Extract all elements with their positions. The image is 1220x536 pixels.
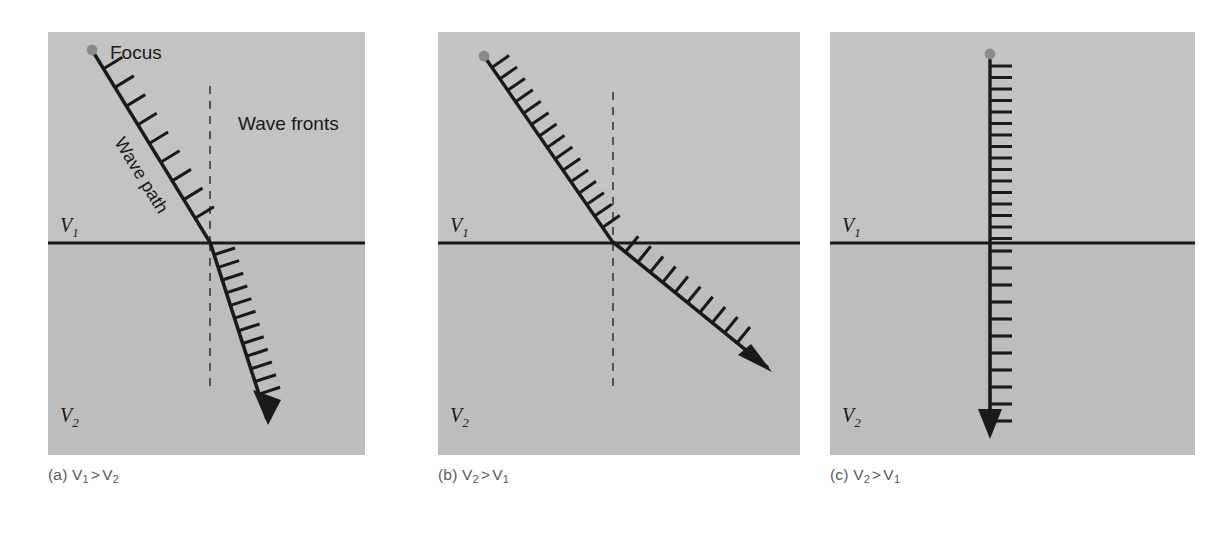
panel-a-diagram: Focus Wave path Wave fronts V1 V2	[48, 32, 365, 455]
upper-velocity-subscript-c: 1	[854, 225, 861, 240]
focus-dot-c	[985, 49, 996, 60]
lower-velocity-subscript-c: 2	[854, 415, 861, 430]
caption-a-left-sub: 1	[83, 473, 89, 485]
caption-b-right-sub: 1	[503, 473, 509, 485]
lower-layer-background	[830, 243, 1195, 455]
caption-b-left-sub: 2	[473, 473, 479, 485]
caption-panel-a: (a) V1>V2	[48, 466, 119, 484]
caption-b-right: V1	[492, 466, 509, 483]
panel-c: V1 V2	[830, 32, 1195, 455]
upper-velocity-subscript-a: 1	[72, 225, 79, 240]
caption-panel-c: (c) V2>V1	[830, 466, 900, 484]
wave-fronts-label-a: Wave fronts	[238, 113, 339, 134]
caption-a-right-letter: V	[102, 466, 113, 483]
upper-layer-background	[438, 32, 800, 243]
caption-panel-b: (b) V2>V1	[438, 466, 509, 484]
caption-b-left: V2	[462, 466, 479, 483]
caption-b-left-letter: V	[462, 466, 473, 483]
panel-b: V1 V2	[438, 32, 800, 455]
caption-c-right-sub: 1	[894, 473, 900, 485]
caption-a-operator: >	[89, 466, 102, 483]
caption-a-right: V2	[102, 466, 119, 483]
focus-label-a: Focus	[110, 42, 162, 63]
caption-c-prefix: (c)	[830, 466, 849, 483]
upper-layer-background	[830, 32, 1195, 243]
caption-b-right-letter: V	[492, 466, 503, 483]
panel-c-diagram: V1 V2	[830, 32, 1195, 455]
wave-refraction-figure: Focus Wave path Wave fronts V1 V2	[0, 0, 1220, 536]
lower-velocity-subscript-a: 2	[72, 415, 79, 430]
caption-c-right: V1	[883, 466, 900, 483]
caption-a-prefix: (a)	[48, 466, 68, 483]
panel-b-diagram: V1 V2	[438, 32, 800, 455]
caption-b-operator: >	[479, 466, 492, 483]
lower-velocity-subscript-b: 2	[462, 415, 469, 430]
caption-a-right-sub: 2	[113, 473, 119, 485]
caption-c-left: V2	[853, 466, 870, 483]
caption-a-left-letter: V	[72, 466, 83, 483]
panel-a: Focus Wave path Wave fronts V1 V2	[48, 32, 365, 455]
caption-b-prefix: (b)	[438, 466, 458, 483]
caption-a-left: V1	[72, 466, 89, 483]
caption-c-left-letter: V	[853, 466, 864, 483]
caption-c-right-letter: V	[883, 466, 894, 483]
caption-c-operator: >	[870, 466, 883, 483]
focus-dot-a	[87, 45, 98, 56]
caption-c-left-sub: 2	[864, 473, 870, 485]
lower-layer-background	[48, 243, 365, 455]
upper-velocity-subscript-b: 1	[462, 225, 469, 240]
focus-dot-b	[479, 51, 490, 62]
